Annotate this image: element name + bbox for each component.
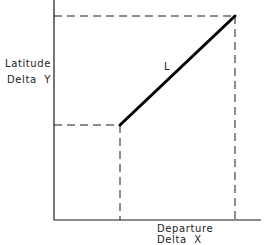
x-axis-label-departure: Departure bbox=[157, 224, 213, 234]
x-axis-label-delta-x: Delta X bbox=[157, 235, 202, 245]
line-l bbox=[120, 16, 235, 125]
line-l-label: L bbox=[164, 62, 170, 72]
y-axis-label-delta-y: Delta Y bbox=[7, 75, 51, 85]
latitude-departure-diagram bbox=[0, 0, 265, 245]
y-axis-label-latitude: Latitude bbox=[5, 59, 51, 69]
